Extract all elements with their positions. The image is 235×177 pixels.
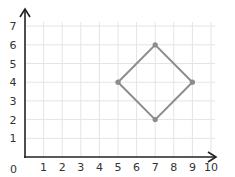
vertex-point [153,42,158,47]
y-tick-label: 7 [10,20,17,33]
x-tick-label: 6 [133,161,140,174]
tick-labels: 0 123456789101234567 [10,20,219,176]
x-tick-label: 4 [96,161,103,174]
x-tick-label: 1 [40,161,47,174]
x-tick-label: 3 [77,161,84,174]
x-tick-label: 9 [189,161,196,174]
y-tick-label: 1 [10,132,17,145]
y-tick-label: 2 [10,114,17,127]
x-tick-label: 8 [170,161,177,174]
grid-lines [25,22,215,157]
vertex-point [190,80,195,85]
vertex-point [153,117,158,122]
x-tick-label: 5 [115,161,122,174]
coordinate-plane: 0 123456789101234567 [0,0,235,177]
origin-label: 0 [10,163,17,176]
x-tick-label: 2 [59,161,66,174]
y-tick-label: 5 [10,58,17,71]
vertex-point [115,80,120,85]
x-tick-label: 10 [204,161,218,174]
x-tick-label: 7 [152,161,159,174]
y-tick-label: 4 [10,76,17,89]
y-tick-label: 3 [10,95,17,108]
y-tick-label: 6 [10,39,17,52]
